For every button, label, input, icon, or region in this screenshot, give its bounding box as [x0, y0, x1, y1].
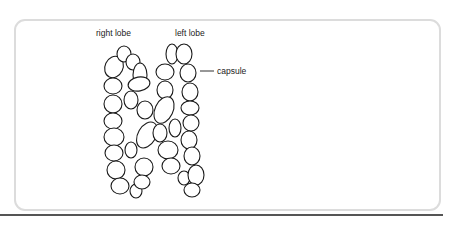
- capsule-label: capsule: [217, 66, 246, 76]
- right-lobe-label: right lobe: [96, 28, 131, 38]
- left-lobe-label: left lobe: [175, 28, 205, 38]
- right-lobe-cells: [101, 46, 162, 198]
- left-lobe-cells: [150, 44, 204, 197]
- cell-diagram: [0, 0, 463, 227]
